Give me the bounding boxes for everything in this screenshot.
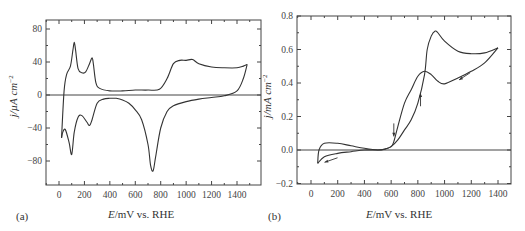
- series-cathodic-sweep: [318, 48, 498, 164]
- y-tick-label: −40: [27, 123, 42, 133]
- x-axis-unit-b: /mV vs. RHE: [373, 208, 432, 220]
- plot-frame-b: [297, 16, 511, 184]
- x-tick-label: 800: [154, 190, 169, 200]
- x-axis-symbol-b: E: [366, 208, 373, 220]
- y-tick-label: 0.6: [281, 45, 293, 55]
- x-tick-label: 0: [309, 189, 314, 199]
- x-tick-label: 1400: [489, 189, 508, 199]
- y-tick-label: 80: [33, 24, 43, 34]
- y-tick-label: −0.2: [276, 179, 293, 189]
- x-tick-label: 0: [57, 190, 62, 200]
- x-tick-label: 200: [331, 189, 346, 199]
- x-tick-label: 200: [77, 190, 92, 200]
- y-axis-exponent-a: −2: [7, 75, 15, 82]
- y-axis-exponent-b: −2: [261, 75, 269, 82]
- arrowhead-icon: [419, 93, 422, 97]
- x-tick-label: 1000: [177, 190, 196, 200]
- series-anodic-sweep: [318, 31, 498, 164]
- plot-panel-a: 020040060080010001200140080400−40−80: [27, 20, 261, 200]
- y-tick-label: 0.8: [281, 11, 293, 21]
- y-tick-label: 0.4: [281, 78, 293, 88]
- y-axis-text-a: j/µA cm: [7, 83, 19, 118]
- plot-panel-b: 02004006008001000120014000.80.60.40.20.0…: [276, 11, 511, 199]
- x-tick-label: 1400: [228, 190, 247, 200]
- y-tick-label: −80: [27, 156, 42, 166]
- x-axis-label-b: E/mV vs. RHE: [366, 208, 432, 220]
- series-cathodic-sweep: [62, 64, 248, 171]
- x-tick-label: 1200: [462, 189, 481, 199]
- x-tick-label: 400: [357, 189, 372, 199]
- y-tick-label: 40: [33, 57, 43, 67]
- arrowhead-icon: [325, 160, 329, 163]
- x-tick-label: 400: [103, 190, 118, 200]
- series-anodic-sweep: [62, 42, 248, 138]
- y-tick-label: 0: [37, 90, 42, 100]
- x-tick-label: 600: [128, 190, 143, 200]
- x-tick-label: 600: [384, 189, 399, 199]
- y-axis-label-a: j/µA cm−2: [7, 61, 20, 131]
- y-axis-label-b: j/mA cm−2: [261, 59, 274, 133]
- x-axis-unit-a: /mV vs. RHE: [115, 208, 174, 220]
- x-tick-label: 1200: [202, 190, 221, 200]
- y-axis-text-b: j/mA cm: [261, 82, 273, 118]
- panel-a-label: (a): [16, 210, 28, 222]
- y-tick-label: 0.2: [281, 112, 293, 122]
- x-tick-label: 800: [411, 189, 426, 199]
- plot-frame-a: [46, 20, 261, 185]
- x-tick-label: 1000: [435, 189, 454, 199]
- x-axis-label-a: E/mV vs. RHE: [108, 208, 174, 220]
- x-axis-symbol-a: E: [108, 208, 115, 220]
- panel-b-label: (b): [268, 210, 281, 222]
- y-tick-label: 0.0: [281, 145, 293, 155]
